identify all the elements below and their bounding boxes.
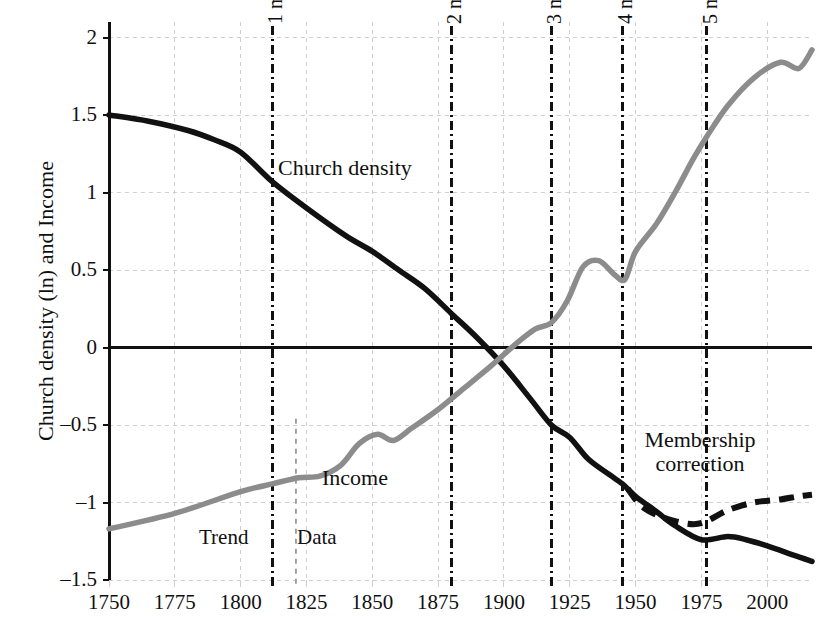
- region-label-trend: Trend: [199, 525, 248, 550]
- y-tick-label: 1.5: [10, 104, 97, 125]
- annotation-membership-correction-line1: Membership: [620, 428, 780, 453]
- series-label-income: Income: [322, 466, 388, 491]
- x-tick-label: 2000: [727, 592, 807, 613]
- marker-label-4-mil: 4 mil: [614, 0, 637, 24]
- annotation-membership-correction-line2: correction: [620, 452, 780, 477]
- series-path-membership-correction: [628, 489, 812, 525]
- y-tick-label: 0.5: [10, 259, 97, 280]
- marker-label-3-mil: 3 mil: [543, 0, 566, 24]
- y-tick-label: 2: [10, 27, 97, 48]
- chart-figure: Church density (ln) and Income 21.510.50…: [0, 0, 820, 627]
- chart-plot-area: [0, 0, 820, 627]
- series-label-church-density: Church density: [278, 156, 412, 181]
- y-tick-label: 1: [10, 182, 97, 203]
- region-label-data: Data: [297, 525, 337, 550]
- marker-label-2-mil: 2 mil: [443, 0, 466, 24]
- x-tick-marks: [109, 580, 767, 587]
- y-tick-label: –0.5: [10, 414, 97, 435]
- marker-label-5-mil: 5 mil: [699, 0, 722, 24]
- y-tick-label: –1.5: [10, 569, 97, 590]
- y-tick-label: –1: [10, 492, 97, 513]
- y-tick-label: 0: [10, 337, 97, 358]
- marker-label-1-mil: 1 mil: [264, 0, 287, 24]
